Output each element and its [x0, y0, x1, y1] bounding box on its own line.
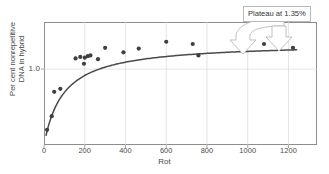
- x-tick-label: 800: [192, 146, 222, 155]
- chart-container: 020040060080010001200 1.0 Rot Per cent n…: [0, 0, 329, 174]
- x-tick-label: 0: [29, 146, 59, 155]
- x-tick-label: 400: [110, 146, 140, 155]
- y-axis-label-line-1: Per cent nonrepetitive: [8, 22, 18, 96]
- x-axis-label: Rot: [0, 157, 329, 166]
- x-tick-label: 1000: [233, 146, 263, 155]
- x-tick-label: 1200: [273, 146, 303, 155]
- data-points: [45, 40, 295, 132]
- x-tick-label: 200: [70, 146, 100, 155]
- plateau-annotation-label: Plateau at 1.35%: [243, 6, 311, 22]
- callout-arrow-icon: [230, 18, 292, 54]
- y-axis-label: Per cent nonrepetitive DNA in hybrid: [4, 4, 30, 114]
- x-tick-label: 600: [151, 146, 181, 155]
- y-axis-label-line-2: DNA in hybrid: [17, 36, 27, 82]
